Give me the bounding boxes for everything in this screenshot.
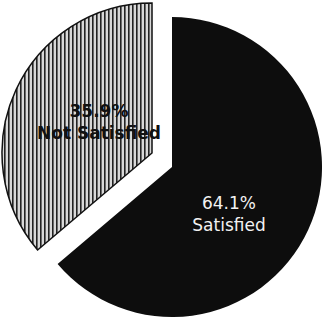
not-satisfied-label: Not Satisfied — [37, 123, 161, 143]
pie-chart: 35.9% Not Satisfied 64.1% Satisfied — [0, 0, 325, 320]
satisfied-percent: 64.1% — [202, 193, 256, 213]
satisfied-label: Satisfied — [192, 215, 265, 235]
not-satisfied-percent: 35.9% — [70, 101, 129, 121]
